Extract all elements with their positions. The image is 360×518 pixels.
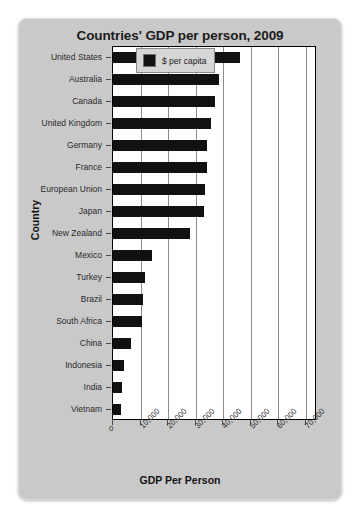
bar-turkey	[113, 272, 145, 283]
y-axis-label-united-kingdom: United Kingdom	[42, 112, 102, 134]
y-axis-tick	[106, 145, 111, 146]
y-axis-tick	[106, 233, 111, 234]
bar-row	[113, 267, 315, 289]
y-axis-label-united-states: United States	[51, 46, 102, 68]
legend-swatch-dollar-per-capita	[143, 54, 156, 67]
bar-india	[113, 382, 122, 393]
bars-layer	[113, 47, 315, 419]
y-axis-label-germany: Germany	[67, 134, 102, 156]
bar-row	[113, 135, 315, 157]
bar-row	[113, 91, 315, 113]
bar-new-zealand	[113, 228, 190, 239]
x-axis-title: GDP Per Person	[18, 474, 342, 486]
bar-row	[113, 201, 315, 223]
bar-china	[113, 338, 131, 349]
y-axis-tick	[106, 277, 111, 278]
y-axis-label-south-africa: South Africa	[56, 310, 102, 332]
y-axis-tick	[106, 321, 111, 322]
y-axis-tick	[106, 343, 111, 344]
bar-row	[113, 245, 315, 267]
bar-row	[113, 333, 315, 355]
y-axis-tick	[106, 101, 111, 102]
bar-row	[113, 311, 315, 333]
y-axis-tick	[106, 211, 111, 212]
y-axis-tick	[106, 57, 111, 58]
bar-row	[113, 223, 315, 245]
bar-canada	[113, 96, 215, 107]
y-axis-label-australia: Australia	[69, 68, 102, 90]
y-axis-tick	[106, 123, 111, 124]
y-axis-label-new-zealand: New Zealand	[52, 222, 102, 244]
plot-area	[112, 46, 316, 420]
y-axis-tick	[106, 409, 111, 410]
y-axis-title: Country	[29, 175, 41, 265]
y-axis-label-japan: Japan	[79, 200, 102, 222]
y-axis-tick	[106, 299, 111, 300]
y-axis-label-turkey: Turkey	[76, 266, 102, 288]
bar-brazil	[113, 294, 143, 305]
bar-vietnam	[113, 404, 121, 415]
bar-france	[113, 162, 207, 173]
bar-indonesia	[113, 360, 124, 371]
bar-germany	[113, 140, 207, 151]
y-axis-tick	[106, 79, 111, 80]
y-axis-tick	[106, 365, 111, 366]
bar-australia	[113, 74, 219, 85]
y-axis-label-canada: Canada	[72, 90, 102, 112]
bar-row	[113, 179, 315, 201]
bar-japan	[113, 206, 204, 217]
y-axis-label-european-union: European Union	[41, 178, 102, 200]
chart-title: Countries' GDP per person, 2009	[18, 28, 342, 43]
legend-label-dollar-per-capita: $ per capita	[162, 56, 206, 66]
bar-united-kingdom	[113, 118, 211, 129]
bar-row	[113, 377, 315, 399]
y-axis-tick	[106, 189, 111, 190]
y-axis-tick	[106, 387, 111, 388]
chart-card: Countries' GDP per person, 2009 United S…	[18, 18, 342, 500]
bar-european-union	[113, 184, 205, 195]
y-axis-label-vietnam: Vietnam	[71, 398, 102, 420]
y-axis-tick	[106, 255, 111, 256]
y-axis-label-indonesia: Indonesia	[65, 354, 102, 376]
bar-row	[113, 157, 315, 179]
y-axis-label-france: France	[76, 156, 102, 178]
x-axis-tick-label-0: 0	[109, 424, 113, 433]
bar-row	[113, 289, 315, 311]
x-axis-tick-labels: 010,00020,00030,00040,00050,00060,00070,…	[112, 424, 322, 474]
bar-row	[113, 113, 315, 135]
bar-south-africa	[113, 316, 142, 327]
y-axis-label-mexico: Mexico	[75, 244, 102, 266]
y-axis-label-brazil: Brazil	[81, 288, 102, 310]
y-axis-label-china: China	[80, 332, 102, 354]
y-axis-tick	[106, 167, 111, 168]
chart-legend: $ per capita	[136, 48, 215, 73]
y-axis-label-india: India	[84, 376, 102, 398]
bar-row	[113, 355, 315, 377]
bar-mexico	[113, 250, 152, 261]
